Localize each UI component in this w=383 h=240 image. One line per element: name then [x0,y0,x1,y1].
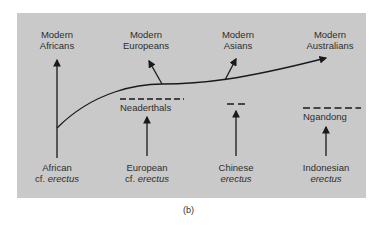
asia-branch-arrow [225,59,236,80]
label-modern-europeans: Modern Europeans [123,29,169,51]
europe-branch-arrow [149,61,162,84]
label-indonesian-erectus: Indonesian erectus [303,162,349,184]
label-modern-asians: Modern Asians [222,29,254,51]
gene-flow-curve [57,58,326,128]
label-modern-africans: Modern Africans [40,29,74,51]
label-european-erectus: European cf. erectus [125,162,169,184]
label-neanderthals: Neaderthals [120,102,171,113]
label-african-erectus: African cf. erectus [35,162,79,184]
label-modern-australians: Modern Australians [307,29,354,51]
label-chinese-erectus: Chinese erectus [219,162,254,184]
label-ngandong: Ngandong [303,111,347,122]
figure-caption: (b) [183,205,194,215]
